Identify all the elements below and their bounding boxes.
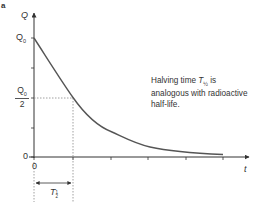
half-sub-den: 2 [56,194,59,199]
y-tick-q0-half: Q0 2 [15,86,29,109]
half-time-sub: 12 [56,191,59,200]
q0-main: Q [16,32,23,42]
q0-half-num-main: Q [17,85,24,95]
x-origin-label: 0 [32,162,37,171]
y-axis-label: Q [21,11,28,20]
x-axis-label: t [244,165,247,174]
annotation-line-1: Halving time T½ is [151,76,259,89]
half-time-label: T12 [50,188,58,200]
half-life-annotation: Halving time T½ is analogous with radioa… [151,76,259,110]
y-tick-q0: Q0 [16,33,26,44]
q0-half-denominator: 2 [15,100,29,109]
q0-half-numerator: Q0 [15,86,29,97]
q0-half-num-sub: 0 [24,91,27,97]
annotation-prefix: Halving time [151,76,198,85]
annotation-line-2: analogous with radioactive [151,89,259,100]
annotation-suffix: is [208,76,216,85]
q0-sub: 0 [23,38,26,44]
annotation-line-3: half-life. [151,100,259,111]
y-tick-zero: 0 [23,152,28,161]
